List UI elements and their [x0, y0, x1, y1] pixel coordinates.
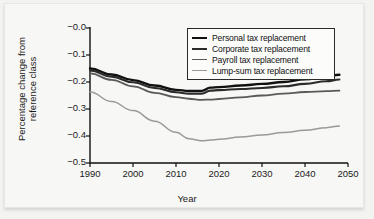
x-tick-label: 2000	[113, 168, 153, 179]
legend-line-swatch	[192, 70, 207, 71]
y-tick-label: −0.0	[52, 21, 86, 32]
y-axis-title-line2: reference class	[27, 29, 38, 149]
legend-item-label: Corporate tax replacement	[212, 44, 310, 54]
legend-line-swatch	[192, 48, 207, 50]
y-axis-title: Percentage change from reference class	[16, 29, 38, 149]
legend-item: Personal tax replacement	[192, 32, 330, 43]
legend-item-label: Payroll tax replacement	[212, 55, 298, 65]
legend-item: Lump-sum tax replacement	[192, 65, 330, 76]
x-axis-title: Year	[0, 193, 374, 204]
y-axis-title-line1: Percentage change from	[16, 29, 27, 149]
x-tick-label: 2040	[285, 168, 325, 179]
legend-item-label: Lump-sum tax replacement	[212, 66, 313, 76]
legend-item-label: Personal tax replacement	[212, 33, 306, 43]
y-tick-label: −0.4	[52, 129, 86, 140]
x-tick-labels: 1990200020102020203020402050	[0, 168, 374, 184]
x-tick-label: 1990	[70, 168, 110, 179]
x-tick-label: 2010	[156, 168, 196, 179]
x-tick-label: 2030	[242, 168, 282, 179]
y-tick-labels: −0.0−0.1−0.2−0.3−0.4−0.5	[52, 0, 86, 219]
y-tick-label: −0.3	[52, 102, 86, 113]
legend-line-swatch	[192, 59, 207, 60]
y-tick-label: −0.1	[52, 48, 86, 59]
chart-legend: Personal tax replacementCorporate tax re…	[187, 28, 335, 80]
y-tick-label: −0.5	[52, 156, 86, 167]
figure-container: Percentage change from reference class −…	[0, 0, 374, 219]
legend-item: Corporate tax replacement	[192, 43, 330, 54]
x-tick-label: 2050	[328, 168, 368, 179]
legend-line-swatch	[192, 37, 207, 39]
y-tick-label: −0.2	[52, 75, 86, 86]
x-tick-label: 2020	[199, 168, 239, 179]
legend-item: Payroll tax replacement	[192, 54, 330, 65]
